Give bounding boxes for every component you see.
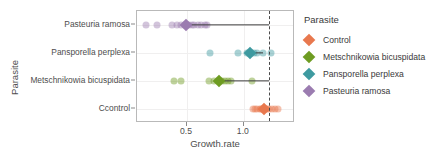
y-tick-mark: [131, 80, 135, 81]
plot-panel: [136, 10, 294, 122]
x-axis-title-text: Growth.rate: [190, 138, 240, 149]
legend: Parasite ControlMetschnikowia bicuspidat…: [302, 14, 444, 99]
data-point: [206, 50, 213, 57]
legend-item-label: Metschnikowia bicuspidata: [323, 52, 425, 62]
reference-line: [269, 11, 270, 121]
chart-root: Parasite Pasteuria ramosaPansporella per…: [0, 0, 447, 154]
y-axis-tick-labels: Pasteuria ramosaPansporella perplexaMets…: [0, 0, 130, 154]
legend-item-label: Control: [323, 35, 351, 45]
error-bar: [182, 24, 268, 25]
data-point: [235, 50, 242, 57]
data-point: [178, 78, 185, 85]
y-tick-label: Metschnikowia bicuspidata: [30, 75, 130, 85]
legend-item[interactable]: Pasteuria ramosa: [302, 82, 444, 99]
y-tick-mark: [131, 108, 135, 109]
y-tick-mark: [131, 52, 135, 53]
data-point: [154, 22, 161, 29]
legend-item[interactable]: Pansporella perplexa: [302, 65, 444, 82]
legend-diamond-icon: [302, 84, 316, 98]
gridline-vertical: [244, 11, 245, 121]
y-tick-mark: [131, 24, 135, 25]
x-axis-title: Growth.rate: [136, 138, 294, 149]
x-tick-label: 0.5: [180, 126, 192, 136]
y-tick-label: Pasteuria ramosa: [64, 19, 130, 29]
legend-diamond-icon: [302, 33, 316, 47]
data-point: [274, 106, 281, 113]
legend-item[interactable]: Control: [302, 31, 444, 48]
legend-title: Parasite: [304, 14, 444, 25]
y-tick-label: Ccontrol: [99, 103, 130, 113]
y-tick-label: Pansporella perplexa: [51, 47, 130, 57]
legend-items: ControlMetschnikowia bicuspidataPanspore…: [302, 31, 444, 99]
mean-marker: [244, 47, 257, 60]
legend-diamond-icon: [302, 50, 316, 64]
data-point: [170, 78, 177, 85]
legend-item-label: Pasteuria ramosa: [323, 86, 390, 96]
legend-diamond-icon: [302, 67, 316, 81]
legend-item[interactable]: Metschnikowia bicuspidata: [302, 48, 444, 65]
legend-item-label: Pansporella perplexa: [323, 69, 404, 79]
x-tick-label: 1.0: [237, 126, 249, 136]
data-point: [143, 22, 150, 29]
